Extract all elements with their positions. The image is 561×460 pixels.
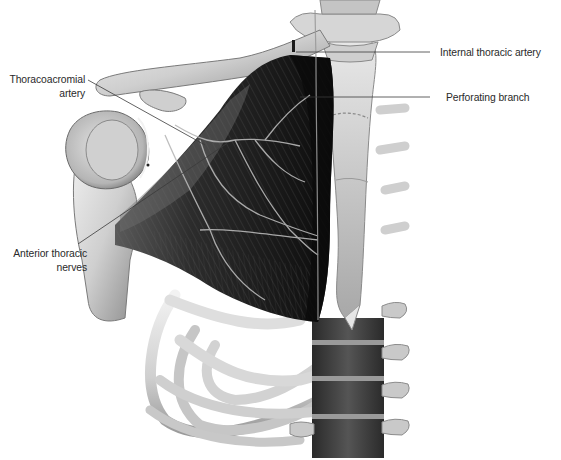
label-anterior-thoracic-nerves: Anterior thoracic nerves [13,246,87,274]
sternum [329,40,376,330]
label-perforating-branch-text: Perforating branch [446,90,530,104]
anatomy-illustration [0,0,561,460]
label-thoracoacromial-artery: Thoracoacromial artery [9,72,85,100]
label-anterior-thoracic-nerves-line1: Anterior thoracic [13,246,87,260]
label-thoracoacromial-artery-line2: artery [9,86,85,100]
label-thoracoacromial-artery-line1: Thoracoacromial [9,72,85,86]
internal-thoracic-artery-stub [292,40,295,52]
label-internal-thoracic-artery: Internal thoracic artery [440,45,541,59]
label-perforating-branch: Perforating branch [446,90,530,104]
label-anterior-thoracic-nerves-line2: nerves [13,260,87,274]
label-internal-thoracic-artery-text: Internal thoracic artery [440,45,541,59]
